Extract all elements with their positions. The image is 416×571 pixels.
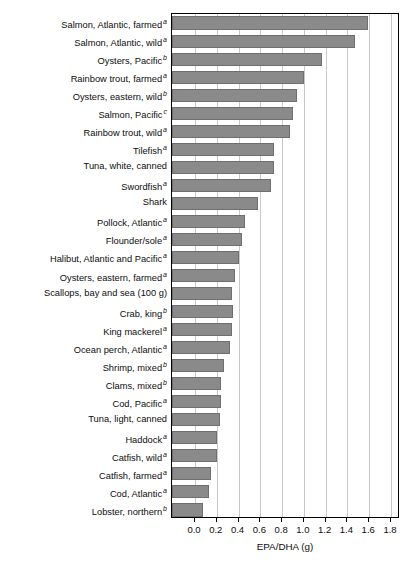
bar-row bbox=[172, 305, 400, 318]
bar bbox=[172, 143, 274, 156]
x-tick-label: 0.6 bbox=[253, 524, 266, 535]
bar bbox=[172, 287, 232, 300]
bar-row bbox=[172, 233, 400, 246]
x-tick-label: 0.4 bbox=[231, 524, 244, 535]
bar-row bbox=[172, 485, 400, 498]
footnote-marker: a bbox=[163, 234, 167, 241]
bar bbox=[172, 89, 297, 102]
category-label: Tuna, light, canned bbox=[0, 414, 167, 424]
bar bbox=[172, 467, 211, 480]
bar bbox=[172, 233, 242, 246]
bar-row bbox=[172, 431, 400, 444]
category-label: Oysters, Pacificb bbox=[0, 53, 167, 66]
footnote-marker: a bbox=[163, 36, 167, 43]
category-label: Salmon, Atlantic, wilda bbox=[0, 35, 167, 48]
bar-row bbox=[172, 53, 400, 66]
bar-row bbox=[172, 125, 400, 138]
footnote-marker: a bbox=[163, 180, 167, 187]
footnote-marker: a bbox=[163, 325, 167, 332]
x-tick-label: 0.8 bbox=[275, 524, 288, 535]
footnote-marker: a bbox=[163, 126, 167, 133]
bar-row bbox=[172, 503, 400, 516]
category-label: Salmon, Atlantic, farmeda bbox=[0, 17, 167, 30]
category-label: Shrimp, mixedb bbox=[0, 360, 167, 373]
footnote-marker: a bbox=[163, 216, 167, 223]
category-label: Haddocka bbox=[0, 432, 167, 445]
bar-row bbox=[172, 323, 400, 336]
footnote-marker: b bbox=[163, 361, 167, 368]
bar-row bbox=[172, 377, 400, 390]
bar bbox=[172, 449, 217, 462]
bar-row bbox=[172, 467, 400, 480]
bar bbox=[172, 161, 274, 174]
x-tick bbox=[259, 518, 260, 522]
bar-row bbox=[172, 251, 400, 264]
x-tick-label: 1.2 bbox=[318, 524, 331, 535]
footnote-marker: a bbox=[163, 72, 167, 79]
bar-row bbox=[172, 341, 400, 354]
category-label: Crab, kingb bbox=[0, 306, 167, 319]
x-axis-title: EPA/DHA (g) bbox=[171, 541, 399, 552]
footnote-marker: c bbox=[164, 108, 168, 115]
bar bbox=[172, 323, 232, 336]
bar-row bbox=[172, 413, 400, 426]
bar-row bbox=[172, 143, 400, 156]
bar-row bbox=[172, 449, 400, 462]
footnote-marker: b bbox=[163, 307, 167, 314]
bar bbox=[172, 359, 224, 372]
bar-row bbox=[172, 269, 400, 282]
bar-series bbox=[172, 14, 398, 517]
x-tick-label: 0.2 bbox=[209, 524, 222, 535]
x-tick bbox=[303, 518, 304, 522]
category-label: Flounder/solea bbox=[0, 233, 167, 246]
category-label: Oysters, eastern, farmeda bbox=[0, 270, 167, 283]
bar-row bbox=[172, 395, 400, 408]
category-label: Oysters, eastern, wildb bbox=[0, 89, 167, 102]
category-axis-labels: Salmon, Atlantic, farmedaSalmon, Atlanti… bbox=[0, 13, 167, 518]
x-tick bbox=[346, 518, 347, 522]
epa-dha-bar-chart: Salmon, Atlantic, farmedaSalmon, Atlanti… bbox=[0, 0, 416, 571]
x-tick-label: 1.0 bbox=[296, 524, 309, 535]
bar-row bbox=[172, 197, 400, 210]
bar bbox=[172, 269, 235, 282]
bar bbox=[172, 395, 221, 408]
footnote-marker: b bbox=[163, 379, 167, 386]
bar bbox=[172, 431, 217, 444]
x-tick bbox=[238, 518, 239, 522]
bar bbox=[172, 503, 203, 516]
x-axis-tick-labels: 0.00.20.40.60.81.01.21.41.61.8 bbox=[0, 524, 416, 538]
category-label: Ocean perch, Atlantica bbox=[0, 342, 167, 355]
bar-row bbox=[172, 215, 400, 228]
bar bbox=[172, 341, 230, 354]
footnote-marker: a bbox=[163, 487, 167, 494]
x-tick-label: 0.0 bbox=[187, 524, 200, 535]
bar-row bbox=[172, 287, 400, 300]
category-label: Tilefisha bbox=[0, 143, 167, 156]
footnote-marker: a bbox=[163, 252, 167, 259]
bar bbox=[172, 35, 355, 48]
bar-row bbox=[172, 107, 400, 120]
bar-row bbox=[172, 161, 400, 174]
x-tick bbox=[390, 518, 391, 522]
bar bbox=[172, 305, 233, 318]
category-label: Rainbow trout, wilda bbox=[0, 125, 167, 138]
category-label: Scallops, bay and sea (100 g) bbox=[0, 288, 167, 298]
footnote-marker: a bbox=[163, 18, 167, 25]
footnote-marker: a bbox=[163, 433, 167, 440]
x-tick-label: 1.8 bbox=[383, 524, 396, 535]
footnote-marker: a bbox=[163, 343, 167, 350]
x-tick bbox=[216, 518, 217, 522]
footnote-marker: b bbox=[163, 90, 167, 97]
bar bbox=[172, 53, 322, 66]
bar bbox=[172, 125, 290, 138]
bar bbox=[172, 251, 239, 264]
bar bbox=[172, 179, 271, 192]
bar bbox=[172, 197, 258, 210]
category-label: Lobster, northernb bbox=[0, 504, 167, 517]
x-tick-label: 1.6 bbox=[362, 524, 375, 535]
bar bbox=[172, 377, 221, 390]
footnote-marker: a bbox=[163, 469, 167, 476]
category-label: Catfish, wilda bbox=[0, 450, 167, 463]
bar bbox=[172, 215, 245, 228]
bar bbox=[172, 413, 220, 426]
